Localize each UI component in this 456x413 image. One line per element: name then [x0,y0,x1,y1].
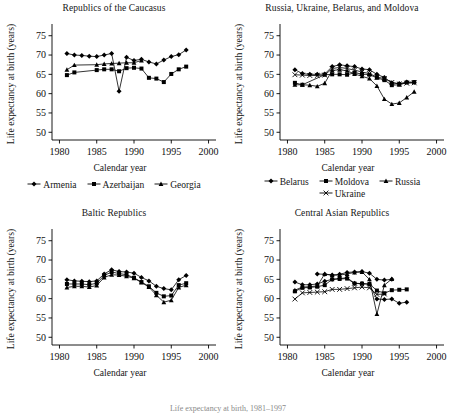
svg-text:Life expectancy at birth (year: Life expectancy at birth (years) [233,229,245,349]
svg-text:50: 50 [36,332,46,343]
plot-area-centralasia: 50556065707519801985199019952000Life exp… [228,205,456,380]
svg-text:75: 75 [36,235,46,246]
svg-text:65: 65 [36,274,46,285]
legend-item-azerbaijan[interactable]: Azerbaijan [87,180,145,191]
plot-area-caucasus: 50556065707519801985199019952000Life exp… [0,0,228,175]
legend-item-ukraine[interactable]: Ukraine [319,188,366,199]
triangle-marker-icon [154,180,168,191]
svg-text:1985: 1985 [87,146,107,157]
svg-text:65: 65 [264,69,274,80]
svg-text:50: 50 [264,332,274,343]
svg-text:1980: 1980 [49,146,69,157]
svg-text:Life expectancy at birth (year: Life expectancy at birth (years) [5,24,17,144]
svg-text:1995: 1995 [161,351,181,362]
svg-text:1980: 1980 [49,351,69,362]
svg-text:70: 70 [36,49,46,60]
legend-label: Ukraine [335,189,366,200]
triangle-marker-icon [379,177,393,188]
legend-label: Georgia [170,180,200,191]
legend-row: ArmeniaAzerbaijanGeorgia [0,180,228,191]
svg-text:2000: 2000 [199,351,219,362]
svg-text:50: 50 [36,127,46,138]
legend-caucasus: ArmeniaAzerbaijanGeorgia [0,180,228,191]
svg-text:60: 60 [264,88,274,99]
svg-text:60: 60 [36,88,46,99]
svg-text:1990: 1990 [124,351,144,362]
svg-text:1980: 1980 [277,351,297,362]
legend-row: BelarusMoldovaRussia [228,177,456,188]
legend-slavic: BelarusMoldovaRussiaUkraine [228,177,456,200]
cross-marker-icon [319,189,333,200]
svg-text:Life expectancy at birth (year: Life expectancy at birth (years) [5,229,17,349]
legend-item-belarus[interactable]: Belarus [264,177,309,188]
legend-label: Azerbaijan [103,180,145,191]
svg-text:70: 70 [264,49,274,60]
legend-item-moldova[interactable]: Moldova [319,177,369,188]
xaxis-title-caucasus: Calendar year [6,163,234,173]
xaxis-title-slavic: Calendar year [234,163,456,173]
legend-item-georgia[interactable]: Georgia [154,180,200,191]
legend-label: Moldova [335,177,369,188]
svg-text:1985: 1985 [87,351,107,362]
panel-baltic: Baltic Republics 50556065707519801985199… [0,205,228,409]
svg-text:65: 65 [36,69,46,80]
svg-text:70: 70 [36,254,46,265]
svg-text:1995: 1995 [161,146,181,157]
legend-item-russia[interactable]: Russia [379,177,420,188]
svg-text:55: 55 [264,312,274,323]
svg-text:1980: 1980 [277,146,297,157]
legend-row: Ukraine [228,188,456,199]
legend-label: Russia [395,177,420,188]
svg-text:65: 65 [264,274,274,285]
svg-text:1990: 1990 [124,146,144,157]
svg-text:50: 50 [264,127,274,138]
svg-text:1985: 1985 [315,146,335,157]
diamond-marker-icon [27,180,41,191]
svg-text:1985: 1985 [315,351,335,362]
square-marker-icon [87,180,101,191]
panel-caucasus: Republics of the Caucasus 50556065707519… [0,0,228,204]
svg-text:60: 60 [264,293,274,304]
svg-text:55: 55 [36,312,46,323]
svg-text:75: 75 [36,30,46,41]
svg-text:75: 75 [264,235,274,246]
svg-text:Life expectancy at birth (year: Life expectancy at birth (years) [233,24,245,144]
svg-text:1995: 1995 [389,351,409,362]
diamond-marker-icon [264,177,278,188]
svg-text:2000: 2000 [199,146,219,157]
legend-item-armenia[interactable]: Armenia [27,180,76,191]
svg-text:55: 55 [36,107,46,118]
svg-text:1990: 1990 [352,146,372,157]
svg-text:2000: 2000 [427,146,447,157]
square-marker-icon [319,177,333,188]
legend-label: Belarus [280,177,309,188]
plot-area-baltic: 50556065707519801985199019952000Life exp… [0,205,228,380]
legend-label: Armenia [43,180,76,191]
svg-text:70: 70 [264,254,274,265]
svg-text:1990: 1990 [352,351,372,362]
svg-text:60: 60 [36,293,46,304]
svg-text:2000: 2000 [427,351,447,362]
xaxis-title-baltic: Calendar year [6,368,234,378]
svg-text:75: 75 [264,30,274,41]
plot-area-slavic: 50556065707519801985199019952000Life exp… [228,0,456,175]
xaxis-title-centralasia: Calendar year [234,368,456,378]
panel-slavic: Russia, Ukraine, Belarus, and Moldova 50… [228,0,456,204]
svg-text:55: 55 [264,107,274,118]
svg-text:1995: 1995 [389,146,409,157]
panel-centralasia: Central Asian Republics 5055606570751980… [228,205,456,409]
figure-caption: Life expectancy at birth, 1981–1997 [0,404,456,413]
